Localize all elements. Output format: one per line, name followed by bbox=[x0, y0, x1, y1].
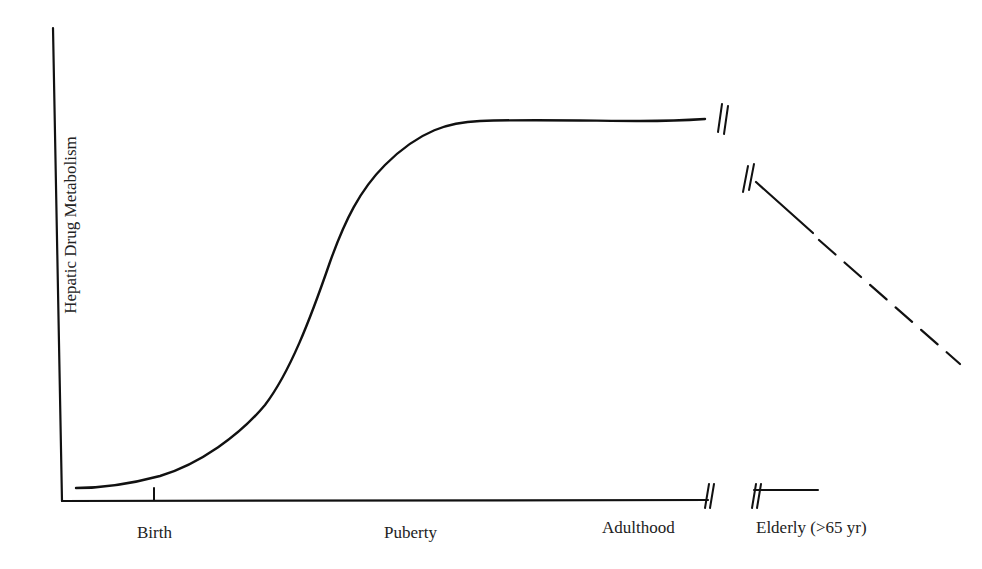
chart-figure: Hepatic Drug Metabolism Birth Puberty Ad… bbox=[0, 0, 982, 569]
x-label-adulthood: Adulthood bbox=[602, 518, 675, 538]
curve-break-elderly-icon bbox=[743, 164, 754, 192]
elderly-decline-dashed bbox=[819, 240, 960, 364]
x-axis-main bbox=[62, 500, 708, 501]
x-label-birth: Birth bbox=[137, 523, 172, 543]
y-axis-label: Hepatic Drug Metabolism bbox=[61, 90, 81, 360]
curve-break-adult-icon bbox=[718, 104, 728, 134]
x-label-elderly: Elderly (>65 yr) bbox=[756, 518, 867, 538]
development-curve bbox=[76, 119, 705, 488]
x-axis-break-right-icon bbox=[752, 484, 761, 508]
chart-canvas bbox=[0, 0, 982, 569]
elderly-decline-solid bbox=[756, 182, 813, 233]
x-axis-break-left-icon bbox=[705, 484, 714, 508]
x-label-puberty: Puberty bbox=[384, 523, 437, 543]
